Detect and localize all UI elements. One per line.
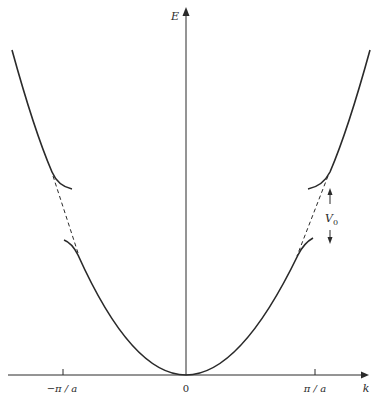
e-axis-arrow-icon — [183, 7, 190, 16]
band-structure-diagram: E k −π / a 0 π / a V 0 — [0, 0, 381, 399]
tick-label-neg-pi-over-a: −π / a — [47, 383, 78, 394]
arrow-up-icon — [328, 188, 333, 195]
k-axis-arrow-icon — [361, 372, 369, 379]
gap-label: V 0 — [325, 212, 338, 227]
upper-band-left-curve — [12, 50, 72, 189]
k-axis-label: k — [363, 382, 370, 395]
arrow-down-icon — [328, 237, 333, 244]
tick-label-zero: 0 — [183, 383, 189, 394]
gap-label-subscript: 0 — [333, 218, 338, 227]
tick-label-pi-over-a: π / a — [303, 383, 326, 394]
upper-band-right-curve — [308, 50, 370, 189]
e-axis — [183, 7, 190, 375]
lower-band-curve — [64, 238, 313, 375]
free-electron-dashed-left — [53, 176, 79, 256]
e-axis-label: E — [170, 10, 179, 23]
